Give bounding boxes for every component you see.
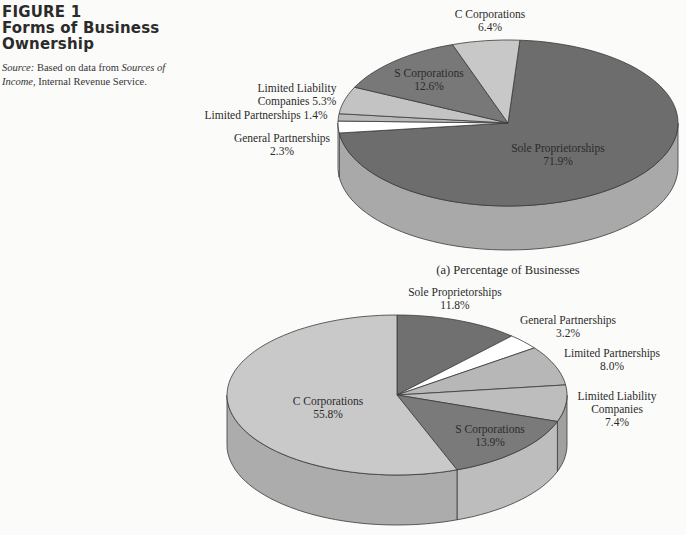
label-sole-proprietorships: Sole Proprietorships11.8% xyxy=(408,286,502,311)
pie-chart-percentage-of-businesses: Sole Proprietorships71.9%General Partner… xyxy=(205,8,678,250)
chart-a-caption: (a) Percentage of Businesses xyxy=(330,263,686,278)
pie-chart-percentage-of-revenues: Sole Proprietorships11.8%General Partner… xyxy=(227,286,661,525)
label-limited-liability-companies: Limited LiabilityCompanies 5.3% xyxy=(258,82,337,108)
label-limited-partnerships: Limited Partnerships8.0% xyxy=(564,347,661,372)
label-limited-partnerships: Limited Partnerships 1.4% xyxy=(205,109,328,122)
pie-top xyxy=(227,315,567,475)
label-general-partnerships: General Partnerships3.2% xyxy=(520,314,617,339)
pie-top xyxy=(338,40,678,206)
label-general-partnerships: General Partnerships2.3% xyxy=(234,132,331,157)
label-limited-liability-companies: Limited LiabilityCompanies7.4% xyxy=(578,390,657,428)
label-c-corporations: C Corporations6.4% xyxy=(455,8,526,33)
